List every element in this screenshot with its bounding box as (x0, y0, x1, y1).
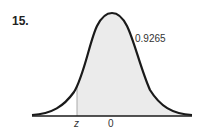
tick-label-z: z (73, 118, 79, 129)
shaded-area (77, 13, 192, 116)
tick-label-zero: 0 (108, 118, 114, 129)
normal-curve-chart: 0.9265 z 0 (0, 0, 199, 129)
area-label: 0.9265 (135, 33, 166, 44)
